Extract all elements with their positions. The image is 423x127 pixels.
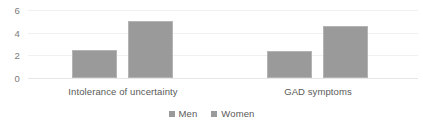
bar-women-intolerance-of-uncertainty (128, 21, 173, 78)
x-axis-category-label-2: GAD symptoms (284, 86, 352, 97)
y-tick-label: 0 (15, 73, 20, 84)
plot-area (28, 8, 418, 79)
legend: Men Women (0, 108, 423, 119)
y-tick-label: 6 (15, 5, 20, 16)
legend-swatch-icon-men (169, 111, 175, 117)
x-axis-category-label-1: Intolerance of uncertainty (68, 86, 177, 97)
y-axis: 6 4 2 0 (0, 0, 26, 87)
legend-swatch-icon-women (211, 111, 217, 117)
bars-layer (28, 8, 418, 79)
legend-item-men: Men (169, 108, 198, 119)
bar-chart: 6 4 2 0 Intolerance of uncertainty GAD s… (0, 0, 423, 127)
y-tick-label: 4 (15, 27, 20, 38)
bar-women-gad-symptoms (323, 26, 368, 78)
y-tick-label: 2 (15, 50, 20, 61)
legend-item-women: Women (211, 108, 254, 119)
legend-label-women: Women (221, 108, 254, 119)
bar-men-gad-symptoms (267, 51, 312, 78)
bar-men-intolerance-of-uncertainty (72, 50, 117, 78)
legend-label-men: Men (179, 108, 198, 119)
